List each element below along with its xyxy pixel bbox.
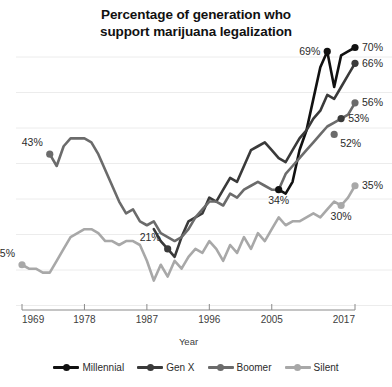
legend-item-label: Boomer [237,362,272,373]
legend-marker-icon [137,363,163,372]
legend-item-millennial[interactable]: Millennial [53,362,124,373]
data-point-label: 34% [268,194,289,206]
chart-legend: MillennialGen XBoomerSilent [0,362,392,373]
data-point-label: 43% [22,136,43,148]
chart-container: Percentage of generation who support mar… [0,0,392,387]
legend-marker-icon [285,363,311,372]
series-line-silent [22,186,355,281]
x-axis-tick-label: 2005 [261,314,284,325]
legend-marker-icon [208,363,234,372]
data-point-label: 70% [362,41,383,53]
x-axis: 196919781987199620052017Year [22,304,355,347]
data-point-label: 15% [0,247,15,259]
data-point-marker [338,202,345,209]
data-point-marker [351,182,358,189]
data-point-marker [338,115,345,122]
data-point-marker [18,261,25,268]
x-axis-tick-label: 1996 [198,314,221,325]
x-axis-title: Year [179,336,198,347]
data-point-label: 30% [331,210,352,222]
legend-item-label: Gen X [166,362,194,373]
data-point-marker [331,131,338,138]
chart-plot-area: 196919781987199620052017Year 15%43%21%34… [0,0,392,360]
x-axis-tick-label: 1987 [136,314,159,325]
x-axis-tick-label: 1978 [73,314,96,325]
data-point-label: 52% [340,137,361,149]
data-point-marker [351,60,358,67]
legend-item-silent[interactable]: Silent [285,362,339,373]
data-point-label: 66% [362,57,383,69]
series-lines [18,44,358,281]
data-point-marker [46,151,53,158]
x-axis-tick-label: 2017 [333,314,356,325]
legend-item-gen-x[interactable]: Gen X [137,362,194,373]
data-point-marker [275,186,282,193]
legend-item-label: Millennial [82,362,124,373]
data-point-marker [324,48,331,55]
legend-item-label: Silent [314,362,339,373]
data-point-marker [351,44,358,51]
data-point-label: 53% [348,112,369,124]
data-point-label: 69% [299,45,320,57]
data-point-label: 56% [362,96,383,108]
legend-item-boomer[interactable]: Boomer [208,362,272,373]
data-point-label: 35% [362,179,383,191]
data-point-marker [164,245,171,252]
legend-marker-icon [53,363,79,372]
data-point-label: 21% [140,231,161,243]
data-point-marker [351,99,358,106]
x-axis-tick-label: 1969 [22,314,45,325]
